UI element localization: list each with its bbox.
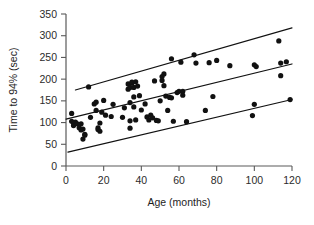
data-point [110, 102, 115, 107]
data-point [210, 94, 215, 99]
y-axis-ticks [61, 14, 66, 166]
data-point [156, 118, 161, 123]
scatter-plot-figure: 050100150200250300350 Time to 94% (sec) … [0, 0, 314, 225]
y-tick-label: 0 [51, 160, 57, 172]
chart-canvas: 050100150200250300350 Time to 94% (sec) … [0, 0, 314, 225]
data-point [133, 117, 138, 122]
data-point [207, 60, 212, 65]
data-point [169, 95, 174, 100]
data-point [143, 101, 148, 106]
data-point [78, 121, 83, 126]
x-tick-label: 40 [135, 174, 147, 186]
x-axis-ticks [66, 166, 292, 171]
x-tick-label: 120 [283, 174, 301, 186]
data-point [131, 94, 136, 99]
data-point [288, 97, 293, 102]
data-point [278, 60, 283, 65]
data-point [171, 119, 176, 124]
data-point [178, 60, 183, 65]
y-tick-label: 150 [39, 94, 57, 106]
x-tick-label: 100 [246, 174, 264, 186]
data-point [88, 115, 93, 120]
data-point [159, 78, 164, 83]
x-tick-label: 0 [63, 174, 69, 186]
data-point [250, 113, 255, 118]
y-axis-title: Time to 94% (sec) [7, 48, 19, 133]
x-axis-tick-labels: 020406080100120 [63, 174, 301, 186]
data-point [137, 93, 142, 98]
data-point [127, 118, 132, 123]
x-tick-label: 60 [173, 174, 185, 186]
data-point [94, 100, 99, 105]
data-point [227, 63, 232, 68]
data-point [120, 115, 125, 120]
data-point [82, 133, 87, 138]
data-point [252, 102, 257, 107]
data-point [139, 107, 144, 112]
data-point [103, 113, 108, 118]
x-axis-title: Age (months) [147, 196, 210, 208]
x-tick-label: 80 [211, 174, 223, 186]
data-point [161, 83, 166, 88]
data-point [94, 108, 99, 113]
data-point [191, 52, 196, 57]
data-point [278, 73, 283, 78]
data-point [101, 98, 106, 103]
data-point [203, 108, 208, 113]
data-point [254, 64, 259, 69]
data-point [161, 71, 166, 76]
data-point [97, 120, 102, 125]
data-point [127, 126, 132, 131]
x-tick-label: 20 [98, 174, 110, 186]
data-point [276, 38, 281, 43]
x-axis: 020406080100120 Age (months) [63, 166, 301, 208]
data-point [135, 83, 140, 88]
data-point [69, 111, 74, 116]
data-point [86, 84, 91, 89]
y-tick-label: 250 [39, 51, 57, 63]
data-point [152, 78, 157, 83]
data-point [169, 56, 174, 61]
data-point [127, 100, 132, 105]
y-tick-label: 100 [39, 116, 57, 128]
lower-prediction-band [68, 100, 292, 153]
data-point [284, 59, 289, 64]
y-axis-tick-labels: 050100150200250300350 [39, 8, 57, 172]
data-point [97, 129, 102, 134]
y-tick-label: 50 [45, 138, 57, 150]
y-tick-label: 350 [39, 8, 57, 20]
data-point [193, 60, 198, 65]
data-point [184, 119, 189, 124]
data-point [158, 98, 163, 103]
data-point [214, 58, 219, 63]
data-point [122, 105, 127, 110]
data-point [165, 108, 170, 113]
data-point [109, 114, 114, 119]
y-axis: 050100150200250300350 Time to 94% (sec) [7, 8, 66, 172]
y-tick-label: 300 [39, 29, 57, 41]
y-tick-label: 200 [39, 73, 57, 85]
data-point [80, 126, 85, 131]
data-point [131, 104, 136, 109]
upper-prediction-band [75, 28, 292, 90]
data-point [180, 89, 185, 94]
